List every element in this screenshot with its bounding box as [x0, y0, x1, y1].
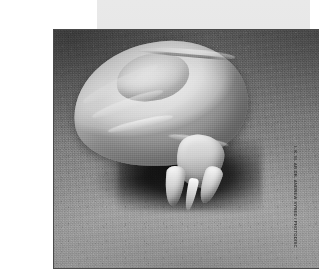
- micrograph-image: [54, 30, 319, 268]
- photo-figure: [53, 29, 319, 269]
- photo-credit: S. K. M. ar Dr. Andrew Syred / Photodisc: [289, 146, 301, 250]
- page-root: scapular medicine: [0, 0, 319, 272]
- photo-credit-text: S. K. M. ar Dr. Andrew Syred / Photodisc: [293, 146, 297, 248]
- image-vignette: [54, 30, 319, 268]
